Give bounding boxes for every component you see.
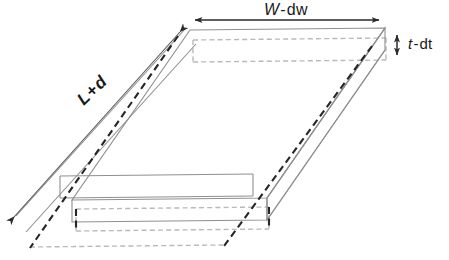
slab-diagram-svg (0, 0, 449, 260)
figure-canvas: W-dw t-dt L+d (0, 0, 449, 260)
guide-line-right-upper (267, 28, 385, 198)
visible-edges-group (16, 28, 385, 232)
hidden-edge-near-bottom (76, 229, 269, 231)
depth-dashed-line-right (224, 46, 372, 246)
guide-line-upper (16, 28, 186, 216)
thickness-dimension-label: t-dt (408, 36, 433, 51)
guide-line-right-lower (267, 50, 385, 220)
hidden-edge-top-back (193, 38, 386, 40)
width-delta: dw (287, 1, 308, 18)
thickness-delta: dt (420, 35, 433, 52)
width-dimension-label: W-dw (264, 2, 308, 18)
length-dimension-arrow (14, 32, 180, 217)
depth-dashed-line-main (30, 36, 178, 248)
hidden-edge-deep-bottom (30, 245, 223, 247)
width-symbol: W (264, 1, 279, 18)
near-block-bottom-edge (60, 196, 253, 198)
front-left-side-face (72, 198, 267, 222)
thickness-operator: - (412, 35, 419, 52)
hidden-edges-group (30, 38, 386, 247)
hidden-edge-bottom-back (193, 60, 386, 62)
guide-line-lower (26, 44, 196, 232)
width-operator: - (279, 1, 287, 18)
right-side-face (267, 28, 385, 220)
hidden-edge-near-top (76, 207, 269, 209)
